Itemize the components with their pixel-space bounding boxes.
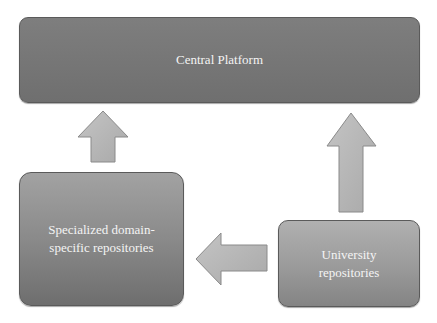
- specialized-repositories-node: Specialized domain-specific repositories: [19, 172, 184, 306]
- university-repositories-node: University repositories: [278, 220, 420, 307]
- central-platform-label: Central Platform: [168, 51, 271, 69]
- central-platform-node: Central Platform: [19, 17, 420, 103]
- specialized-repositories-label: Specialized domain-specific repositories: [29, 221, 175, 256]
- arrow-specialized-to-central: [78, 111, 128, 162]
- arrow-university-to-central: [327, 113, 376, 212]
- arrow-university-to-specialized: [196, 233, 267, 285]
- university-repositories-label: University repositories: [296, 246, 402, 281]
